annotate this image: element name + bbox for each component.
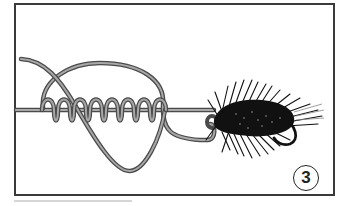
- fly-icon: [206, 80, 324, 158]
- knot-illustration: [0, 0, 340, 206]
- step-number-badge: 3: [293, 165, 319, 191]
- divider: [14, 200, 132, 202]
- crossing-line: [21, 59, 165, 171]
